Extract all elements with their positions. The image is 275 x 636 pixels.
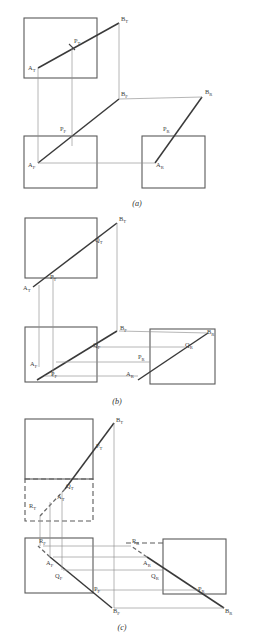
panel-c-drawing: BT PT QT AT RT RF RR AF AR QF QR PF PR B… — [0, 410, 275, 636]
label-p-front: PF — [60, 125, 67, 134]
panel-c: BT PT QT AT RT RF RR AF AR QF QR PF PR B… — [0, 410, 275, 636]
right-view-plane — [163, 539, 226, 594]
label-a-front: AF — [30, 360, 38, 369]
label-q-top: QT — [66, 482, 74, 491]
line-ar-br — [138, 333, 208, 380]
label-a-front: AF — [28, 161, 36, 170]
label-b-right: BR — [225, 607, 233, 616]
label-p-right: PR — [138, 353, 146, 362]
panel-b-drawing: BT QT PT AT BF BR QF QR PR AF PF AR (b) — [0, 207, 275, 412]
label-a-top: AT — [57, 493, 65, 502]
panel-b-caption: (b) — [112, 397, 122, 406]
panel-a-drawing: BT PT AT BF BR PF PR AF AR (a) — [0, 0, 275, 212]
line-af-rf-extension — [38, 546, 50, 557]
label-q-front: QF — [55, 572, 63, 581]
label-b-top: BT — [119, 215, 126, 224]
panel-c-caption: (c) — [117, 623, 126, 632]
label-p-front: PF — [51, 370, 58, 379]
figure-page: BT PT AT BF BR PF PR AF AR (a) — [0, 0, 275, 636]
extended-top-plane — [25, 479, 93, 521]
label-a-right: AR — [143, 559, 152, 568]
projector-b-front-right — [119, 97, 202, 99]
label-q-top: QT — [95, 236, 103, 245]
line-ar-br — [147, 557, 224, 608]
panel-a: BT PT AT BF BR PF PR AF AR (a) — [0, 0, 275, 212]
label-q-right: QR — [151, 572, 160, 581]
front-view-plane — [25, 327, 97, 382]
line-af-bf — [38, 99, 119, 163]
label-a-right: AR — [126, 370, 135, 379]
top-view-plane — [25, 419, 93, 479]
label-p-top: PT — [96, 442, 103, 451]
front-view-plane — [24, 136, 97, 188]
label-b-right: BR — [205, 88, 213, 97]
top-view-plane — [25, 218, 97, 278]
label-a-front: AF — [46, 559, 54, 568]
label-r-top: RT — [29, 502, 36, 511]
label-r-right: RR — [132, 537, 140, 546]
line-ar-rr-extension — [131, 546, 147, 557]
right-view-plane — [142, 136, 205, 188]
panel-b: BT QT PT AT BF BR QF QR PR AF PF AR (b) — [0, 207, 275, 412]
label-p-front: PF — [94, 585, 101, 594]
line-af-bf — [50, 557, 112, 608]
line-at-bt — [33, 223, 117, 287]
right-view-plane — [150, 329, 215, 384]
label-b-top: BT — [116, 416, 123, 425]
label-p-top: PT — [74, 37, 81, 46]
label-p-right: PR — [163, 125, 171, 134]
label-b-front: BF — [121, 90, 128, 99]
line-af-bf — [37, 331, 117, 380]
label-a-right: AR — [156, 161, 165, 170]
label-a-top: AT — [28, 64, 36, 73]
label-a-top: AT — [23, 284, 31, 293]
label-p-top: PT — [50, 273, 57, 282]
projector-b-front-right — [119, 331, 208, 333]
label-b-top: BT — [121, 15, 128, 24]
